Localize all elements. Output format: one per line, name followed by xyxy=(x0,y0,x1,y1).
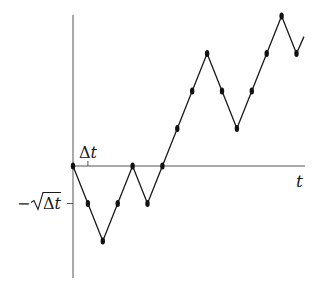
delta-t-label: Δt xyxy=(79,143,98,162)
walk-point xyxy=(279,12,283,19)
minus-sqrt-delta-t-label: − Δt xyxy=(17,193,62,213)
walk-point xyxy=(130,162,134,169)
sqrt-radicand: Δt xyxy=(43,194,62,213)
walk-point xyxy=(71,162,75,169)
walk-point xyxy=(205,50,209,57)
walk-point xyxy=(250,87,254,94)
random-walk-path xyxy=(73,16,304,241)
walk-point xyxy=(160,162,164,169)
random-walk-diagram: t Δt − Δt xyxy=(0,0,318,296)
walk-point xyxy=(175,125,179,132)
walk-point xyxy=(220,87,224,94)
minus-sign: − xyxy=(17,194,30,213)
x-axis-label: t xyxy=(296,171,303,191)
t-symbol: t xyxy=(91,143,98,162)
walk-point xyxy=(190,87,194,94)
random-walk-plot: t Δt − Δt xyxy=(0,0,318,296)
walk-point xyxy=(294,50,298,57)
delta-symbol: Δ xyxy=(79,143,91,162)
walk-point xyxy=(265,50,269,57)
walk-points xyxy=(71,12,299,244)
walk-point xyxy=(235,125,239,132)
walk-point xyxy=(145,200,149,207)
walk-point xyxy=(116,200,120,207)
walk-point xyxy=(101,237,105,244)
walk-point xyxy=(86,200,90,207)
